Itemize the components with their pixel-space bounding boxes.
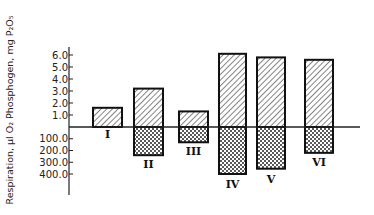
category-label: III [186,145,201,158]
bar-group-I: I [93,108,122,141]
respiration-bar [305,60,333,127]
tick-label: 200.0 [39,145,68,156]
bar-group-V: V [257,57,285,186]
tick-label: 3.0 [52,86,68,97]
category-label: V [266,173,276,186]
tick-label: 5.0 [52,62,68,73]
tick-label: 1.0 [52,110,68,121]
bar-chart: Respiration, µl O₂ Phosphogen, mg P₂O₅ 6… [0,0,374,215]
respiration-bar [179,111,208,127]
tick-label: 400.0 [39,169,68,180]
category-label: IV [226,178,240,191]
phosphogen-bar [219,127,246,174]
tick-label: 2.0 [52,98,68,109]
phosphogen-bar [134,127,163,155]
tick-label: 100.0 [39,133,68,144]
bar-group-II: II [134,89,163,171]
phosphogen-bar [305,127,333,153]
bar-group-VI: VI [305,60,333,169]
category-label: II [143,158,153,171]
respiration-bar [219,54,246,127]
respiration-bar [257,57,285,127]
bar-group-IV: IV [219,54,246,191]
respiration-bar [93,108,122,127]
phosphogen-bar [257,127,285,169]
tick-label: 4.0 [52,74,68,85]
y-axis-label: Respiration, µl O₂ Phosphogen, mg P₂O₅ [4,15,15,204]
tick-label: 300.0 [39,157,68,168]
respiration-bar [134,89,163,127]
category-label: VI [311,156,326,169]
y-axis-title: Respiration, µl O₂ Phosphogen, mg P₂O₅ [4,15,15,204]
tick-label: 6.0 [52,50,68,61]
bar-group-III: III [179,111,208,158]
bars: IIIIIIIVVVI [69,54,360,191]
category-label: I [105,128,110,141]
phosphogen-bar [179,127,208,142]
